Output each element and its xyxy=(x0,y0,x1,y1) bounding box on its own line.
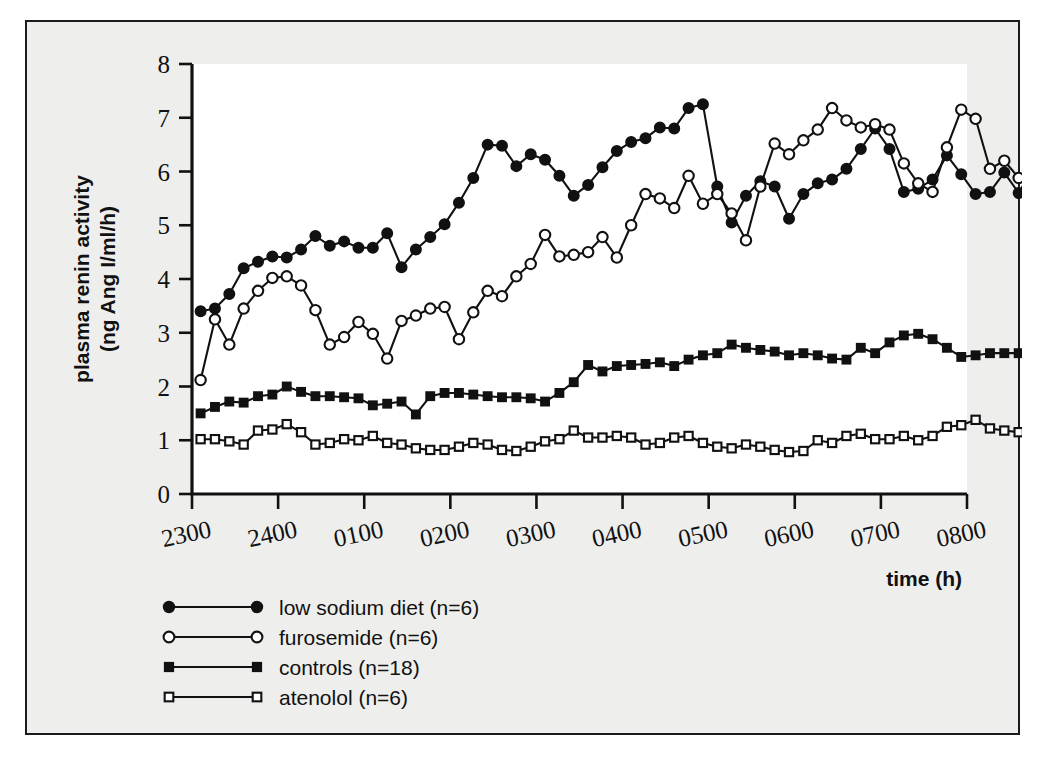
data-point-marker xyxy=(325,339,335,349)
y-axis-tick-label: 2 xyxy=(158,374,171,401)
y-axis-title-line1: plasma renin activity xyxy=(70,175,93,383)
data-point-marker xyxy=(210,303,220,313)
data-point-marker xyxy=(282,271,292,281)
data-point-marker xyxy=(785,351,793,359)
data-point-marker xyxy=(469,390,477,398)
data-point-marker xyxy=(354,394,362,402)
data-point-marker xyxy=(569,190,579,200)
data-point-marker xyxy=(368,329,378,339)
data-point-marker xyxy=(296,280,306,290)
x-axis-tick-label: 2400 xyxy=(245,515,300,552)
legend-item[interactable]: controls (n=18) xyxy=(165,656,420,679)
y-axis-tick-label: 0 xyxy=(158,481,171,508)
data-point-marker xyxy=(914,330,922,338)
data-point-marker xyxy=(656,358,664,366)
data-point-marker xyxy=(885,338,893,346)
data-point-marker xyxy=(570,426,578,434)
data-point-marker xyxy=(771,347,779,355)
legend-item[interactable]: low sodium diet (n=6) xyxy=(164,596,480,619)
data-point-marker xyxy=(899,158,909,168)
data-point-marker xyxy=(526,259,536,269)
data-point-marker xyxy=(512,393,520,401)
data-point-marker xyxy=(971,416,979,424)
data-point-marker xyxy=(698,199,708,209)
data-point-marker xyxy=(584,361,592,369)
data-point-marker xyxy=(196,409,204,417)
data-point-marker xyxy=(827,174,837,184)
y-axis-title: plasma renin activity(ng Ang I/ml/h) xyxy=(70,175,119,383)
data-point-marker xyxy=(383,439,391,447)
data-point-marker xyxy=(283,382,291,390)
data-point-marker xyxy=(497,141,507,151)
data-point-marker xyxy=(970,114,980,124)
legend-item[interactable]: furosemide (n=6) xyxy=(164,626,439,649)
data-point-marker xyxy=(554,251,564,261)
data-point-marker xyxy=(297,388,305,396)
data-point-marker xyxy=(627,361,635,369)
data-point-marker xyxy=(254,426,262,434)
data-point-marker xyxy=(655,193,665,203)
y-axis-tick-label: 1 xyxy=(158,427,171,454)
data-point-marker xyxy=(468,173,478,183)
y-axis-tick-label: 5 xyxy=(158,212,171,239)
data-point-marker xyxy=(554,171,564,181)
y-axis-tick-label: 8 xyxy=(158,51,171,78)
data-point-marker xyxy=(885,435,893,443)
data-point-marker xyxy=(527,394,535,402)
data-point-marker xyxy=(527,443,535,451)
data-point-marker xyxy=(871,349,879,357)
y-axis-title-line2: (ng Ang I/ml/h) xyxy=(96,206,119,352)
data-point-marker xyxy=(597,232,607,242)
data-point-marker xyxy=(426,446,434,454)
data-point-marker xyxy=(425,303,435,313)
data-point-marker xyxy=(282,252,292,262)
data-point-marker xyxy=(900,432,908,440)
data-point-marker xyxy=(999,156,1009,166)
legend-item[interactable]: atenolol (n=6) xyxy=(165,686,408,709)
data-point-marker xyxy=(454,334,464,344)
data-point-marker xyxy=(756,443,764,451)
data-point-marker xyxy=(165,693,174,702)
data-point-marker xyxy=(742,440,750,448)
data-point-marker xyxy=(584,433,592,441)
data-point-marker xyxy=(828,354,836,362)
data-point-marker xyxy=(856,144,866,154)
data-point-marker xyxy=(240,398,248,406)
data-point-marker xyxy=(439,302,449,312)
data-point-marker xyxy=(555,435,563,443)
data-point-marker xyxy=(684,355,692,363)
data-point-marker xyxy=(699,439,707,447)
data-point-marker xyxy=(224,339,234,349)
data-point-marker xyxy=(268,425,276,433)
data-point-marker xyxy=(943,423,951,431)
data-point-marker xyxy=(927,187,937,197)
data-point-marker xyxy=(354,436,362,444)
data-point-marker xyxy=(613,362,621,370)
data-point-marker xyxy=(484,392,492,400)
data-point-marker xyxy=(541,397,549,405)
data-point-marker xyxy=(798,189,808,199)
data-point-marker xyxy=(326,392,334,400)
data-point-marker xyxy=(756,346,764,354)
data-point-marker xyxy=(986,424,994,432)
x-axis-tick-label: 0700 xyxy=(848,515,903,552)
data-point-marker xyxy=(468,307,478,317)
data-point-marker xyxy=(311,440,319,448)
data-point-marker xyxy=(856,122,866,132)
data-point-marker xyxy=(971,351,979,359)
data-point-marker xyxy=(683,103,693,113)
data-point-marker xyxy=(339,332,349,342)
data-point-marker xyxy=(397,440,405,448)
data-point-marker xyxy=(857,344,865,352)
data-point-marker xyxy=(211,403,219,411)
legend-label: atenolol (n=6) xyxy=(279,686,408,709)
data-point-marker xyxy=(368,243,378,253)
data-point-marker xyxy=(396,262,406,272)
data-point-marker xyxy=(769,138,779,148)
data-point-marker xyxy=(195,306,205,316)
data-point-marker xyxy=(626,137,636,147)
data-point-marker xyxy=(727,444,735,452)
data-point-marker xyxy=(698,99,708,109)
data-point-marker xyxy=(339,236,349,246)
data-point-marker xyxy=(1013,188,1022,198)
